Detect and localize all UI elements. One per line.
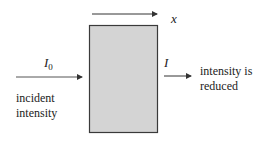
transmitted-text-line1: intensity is <box>200 64 252 78</box>
incident-text-line2: intensity <box>16 106 57 120</box>
path-length-label: x <box>171 12 177 26</box>
incident-intensity-symbol: I0 <box>44 56 53 74</box>
incident-intensity-symbol-subscript: 0 <box>48 62 53 72</box>
transmitted-intensity-symbol: I <box>164 56 168 70</box>
sample-box <box>90 26 158 133</box>
incident-text-line1: incident <box>16 91 55 105</box>
transmitted-text-line2: reduced <box>200 79 238 93</box>
